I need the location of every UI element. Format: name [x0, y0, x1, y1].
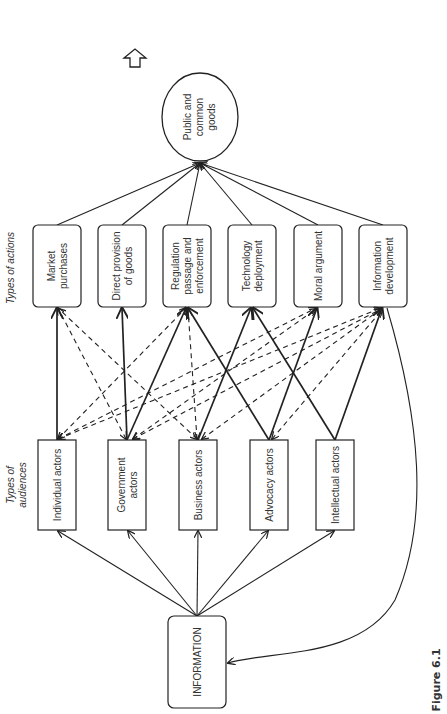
actions-row-label: Types of actions [5, 232, 16, 304]
action-boxes [33, 225, 407, 307]
information-label: INFORMATION [192, 627, 203, 696]
diagram-canvas: Public and common goods Types of actions… [0, 0, 447, 714]
audience-government-2: actors [128, 471, 139, 498]
action-infodev-1: Information [372, 241, 383, 291]
dashed-edges [58, 308, 382, 439]
action-regulation-2: passage and [182, 237, 193, 294]
audience-individual: Individual actors [52, 449, 63, 521]
audience-business: Business actors [193, 450, 204, 521]
action-technology-1: Technology [241, 241, 252, 292]
audience-government-1: Government [116, 457, 127, 512]
action-regulation-3: enforcement [194, 238, 205, 294]
audiences-row-label-2: audiences [17, 462, 28, 508]
information-to-audience-edges [58, 531, 334, 616]
audience-advocacy: Advocacy actors [264, 448, 275, 521]
action-to-goal-edges [57, 163, 383, 225]
action-direct-2: of goods [123, 247, 134, 285]
action-direct-1: Direct provision [111, 232, 122, 301]
up-arrow-icon [124, 49, 146, 67]
goal-line3: goods [206, 103, 217, 130]
goal-line1: Public and [182, 94, 193, 141]
goal-line2: common [194, 98, 205, 136]
action-moral-1: Moral argument [313, 231, 324, 301]
action-market-1: Market [46, 250, 57, 281]
action-market-2: purchases [58, 243, 69, 289]
audiences-row-label-1: Types of [5, 465, 16, 504]
figure-caption: Figure 6.1 [430, 648, 443, 711]
action-technology-2: deployment [253, 240, 264, 292]
action-regulation-1: Regulation [170, 242, 181, 290]
audience-intellectual: Intellectual actors [330, 446, 341, 524]
action-infodev-2: development [384, 237, 395, 294]
